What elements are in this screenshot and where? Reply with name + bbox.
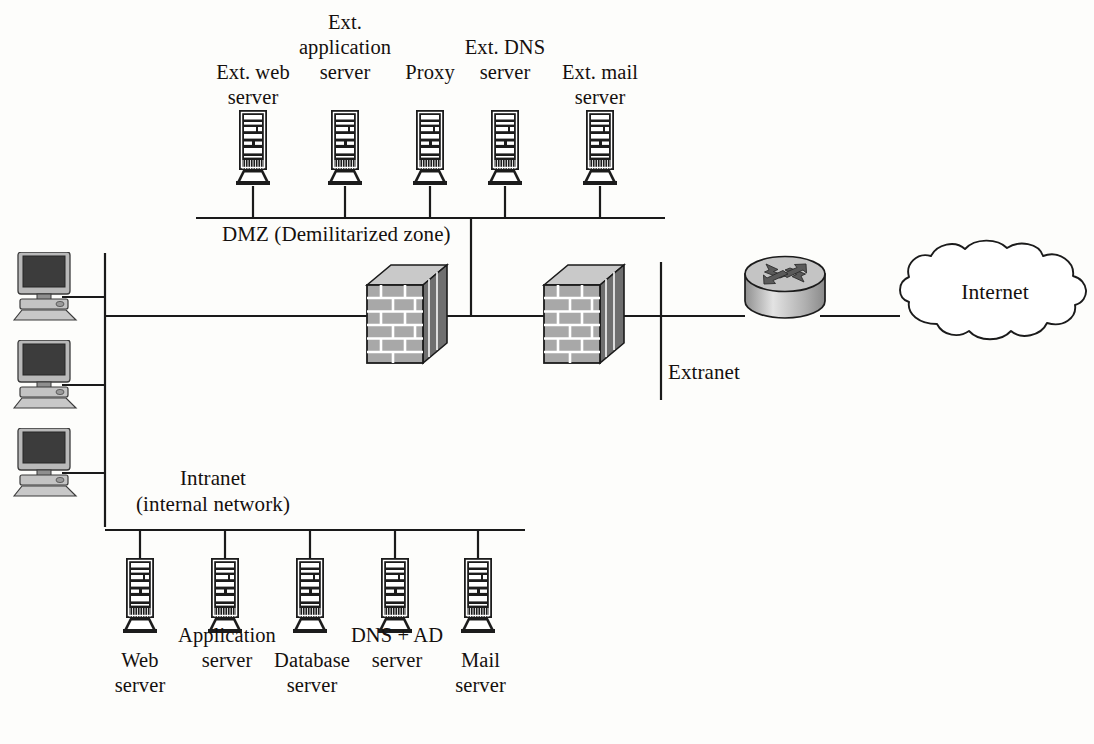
computer-icon: [14, 252, 76, 320]
intranet-server-group: [123, 558, 495, 633]
label-ext-mail-server: Ext. mail server: [532, 60, 668, 110]
firewall-icon: [544, 265, 624, 363]
label-intranet-zone-line2: (internal network): [108, 492, 318, 517]
server-icon: [328, 110, 362, 185]
server-icon: [378, 558, 412, 633]
label-intranet-zone-line1: Intranet: [108, 466, 318, 491]
label-mail-server: Mail server: [428, 648, 533, 698]
computer-icon: [14, 428, 76, 496]
server-icon: [413, 110, 447, 185]
workstation-group: [14, 252, 76, 496]
server-icon: [236, 110, 270, 185]
label-internet-cloud: Internet: [920, 280, 1070, 305]
server-icon: [208, 558, 242, 633]
server-icon: [461, 558, 495, 633]
computer-icon: [14, 340, 76, 408]
label-dmz-zone: DMZ (Demilitarized zone): [222, 222, 522, 247]
router-icon: [745, 257, 825, 319]
dmz-server-group: [236, 110, 617, 185]
label-extranet-zone: Extranet: [668, 360, 828, 385]
server-icon: [293, 558, 327, 633]
firewall-icon: [367, 265, 447, 363]
server-icon: [123, 558, 157, 633]
server-icon: [583, 110, 617, 185]
network-diagram: Ext. web server Ext. application server …: [0, 0, 1094, 744]
server-icon: [488, 110, 522, 185]
